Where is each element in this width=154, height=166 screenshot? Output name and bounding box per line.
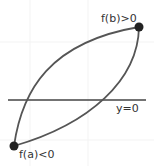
- upper-curve: [14, 27, 139, 146]
- label-fb: f(b)>0: [101, 12, 137, 25]
- label-axis: y=0: [116, 102, 139, 115]
- ivt-diagram: f(b)>0 f(a)<0 y=0: [0, 0, 154, 166]
- point-a-marker: [10, 142, 19, 151]
- lower-curve: [14, 27, 139, 146]
- label-fa: f(a)<0: [19, 148, 54, 161]
